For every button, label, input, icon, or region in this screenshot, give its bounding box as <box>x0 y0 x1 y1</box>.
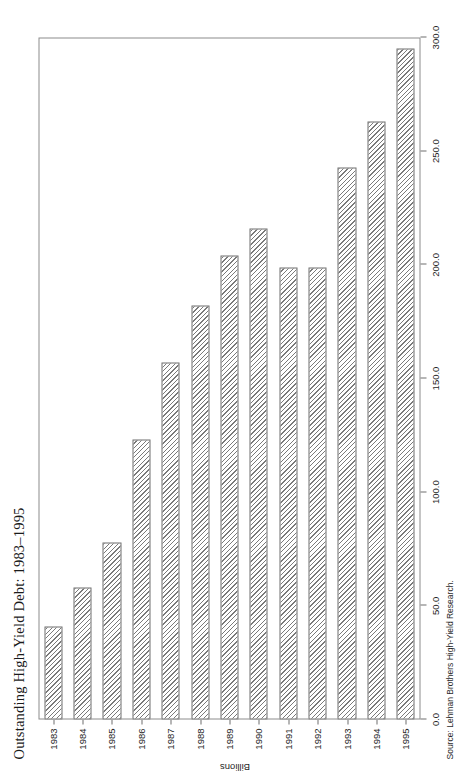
value-tick-label: 0.0 <box>429 712 440 725</box>
category-label-1995: 1995 <box>400 728 411 749</box>
category-label-1990: 1990 <box>253 728 264 749</box>
bar-1989[interactable] <box>220 255 238 719</box>
bar-row <box>44 37 62 719</box>
value-tick <box>420 150 426 151</box>
bar-row <box>132 37 150 719</box>
category-tick <box>111 719 112 724</box>
category-tick <box>288 719 289 724</box>
value-tick <box>420 36 426 37</box>
category-label-1984: 1984 <box>77 728 88 749</box>
bar-row <box>279 37 297 719</box>
category-tick <box>53 719 54 724</box>
bar-1984[interactable] <box>73 587 91 719</box>
value-tick-label: 300.0 <box>429 25 440 49</box>
bar-row <box>308 37 326 719</box>
category-label-1983: 1983 <box>47 728 58 749</box>
bar-1995[interactable] <box>396 48 414 719</box>
category-tick <box>376 719 377 724</box>
bar-row <box>337 37 355 719</box>
category-tick <box>258 719 259 724</box>
value-tick <box>420 604 426 605</box>
category-label-1985: 1985 <box>106 728 117 749</box>
category-tick <box>317 719 318 724</box>
category-label-1987: 1987 <box>165 728 176 749</box>
value-tick-label: 50.0 <box>429 596 440 615</box>
bar-row <box>249 37 267 719</box>
bar-row <box>220 37 238 719</box>
page-title: Outstanding High-Yield Debt: 1983–1995 <box>10 507 27 759</box>
bar-row <box>396 37 414 719</box>
category-label-1989: 1989 <box>224 728 235 749</box>
bar-1985[interactable] <box>102 542 120 719</box>
bar-row <box>161 37 179 719</box>
value-axis-title: Billions <box>219 762 249 773</box>
bar-1990[interactable] <box>249 228 267 719</box>
bar-row <box>73 37 91 719</box>
chart-figure: Outstanding High-Yield Debt: 1983–1995 1… <box>0 0 466 777</box>
category-label-1992: 1992 <box>312 728 323 749</box>
bar-1986[interactable] <box>132 439 150 719</box>
value-tick-label: 200.0 <box>429 252 440 276</box>
plot-area <box>38 37 420 719</box>
bar-1992[interactable] <box>308 267 326 719</box>
category-tick <box>405 719 406 724</box>
category-tick <box>82 719 83 724</box>
category-tick <box>170 719 171 724</box>
bar-1987[interactable] <box>161 362 179 719</box>
value-tick-label: 150.0 <box>429 366 440 390</box>
source-note: Source: Lehman Brothers High-Yield Resea… <box>444 580 454 759</box>
value-tick <box>420 718 426 719</box>
figure-rotation-wrapper: Outstanding High-Yield Debt: 1983–1995 1… <box>0 0 466 777</box>
category-label-1994: 1994 <box>370 728 381 749</box>
value-tick <box>420 263 426 264</box>
category-label-1993: 1993 <box>341 728 352 749</box>
category-tick <box>141 719 142 724</box>
bar-1988[interactable] <box>191 305 209 719</box>
value-tick <box>420 491 426 492</box>
bar-1991[interactable] <box>279 267 297 719</box>
value-tick <box>420 377 426 378</box>
category-tick <box>229 719 230 724</box>
category-tick <box>347 719 348 724</box>
bar-1993[interactable] <box>337 167 355 719</box>
category-label-1986: 1986 <box>135 728 146 749</box>
value-tick-label: 250.0 <box>429 139 440 163</box>
bar-1983[interactable] <box>44 626 62 719</box>
bar-row <box>102 37 120 719</box>
category-label-1991: 1991 <box>282 728 293 749</box>
category-tick <box>200 719 201 724</box>
bar-row <box>191 37 209 719</box>
bar-row <box>367 37 385 719</box>
category-label-1988: 1988 <box>194 728 205 749</box>
value-tick-label: 100.0 <box>429 480 440 504</box>
bar-1994[interactable] <box>367 121 385 719</box>
